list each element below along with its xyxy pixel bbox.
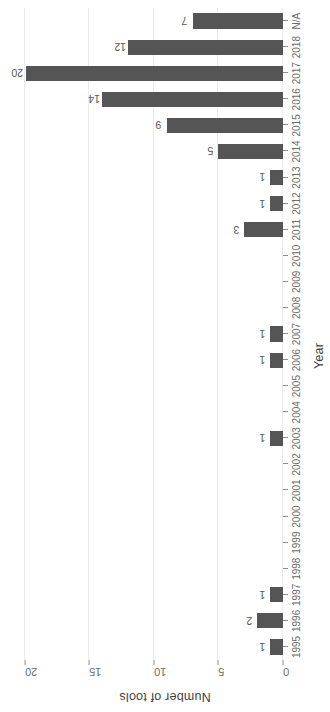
bar-slot[interactable] [12,556,283,582]
bar[interactable] [270,639,283,654]
bar[interactable] [270,587,283,602]
bar[interactable] [270,326,283,341]
x-tick-mark [283,516,288,517]
y-tick-label: 10 [154,666,166,678]
bar-value-label: 14 [88,94,100,105]
x-tick-mark [283,46,288,47]
figure-rotation-wrapper: Number of tools 05101520 121111311591420… [0,0,330,712]
bar-slot[interactable]: 1 [12,321,283,347]
x-tick-mark [283,72,288,73]
bar[interactable] [218,144,283,159]
bar[interactable] [270,431,283,446]
bar[interactable] [193,14,283,29]
bar-value-label: 1 [259,355,265,366]
bar-value-label: 1 [259,590,265,601]
bar[interactable] [270,353,283,368]
bar-slot[interactable] [12,451,283,477]
plot-inner: 121111311591420127 [12,8,283,660]
x-tick-label: 2004 [291,401,302,423]
x-tick-label: 2005 [291,375,302,397]
x-tick-mark [283,98,288,99]
x-tick-mark [283,489,288,490]
bar[interactable] [26,66,284,81]
bar-slot[interactable]: 5 [12,138,283,164]
bar[interactable] [270,196,283,211]
bar-value-label: 9 [156,120,162,131]
x-tick-label: 1995 [291,636,302,658]
bar-slot[interactable]: 1 [12,164,283,190]
x-tick-mark [283,124,288,125]
x-tick-mark [283,385,288,386]
bar-slot[interactable]: 1 [12,582,283,608]
x-tick-label: 2010 [291,245,302,267]
x-tick-label: 2014 [291,140,302,162]
y-tick-label: 15 [89,666,101,678]
bar-slot[interactable]: 14 [12,86,283,112]
bar-slot[interactable]: 20 [12,60,283,86]
y-tick-mark [153,660,154,665]
bar-slot[interactable] [12,399,283,425]
bar[interactable] [257,613,283,628]
bar-slot[interactable]: 2 [12,608,283,634]
bar-slot[interactable] [12,373,283,399]
bar-value-label: 7 [182,16,188,27]
bar-chart-figure: Number of tools 05101520 121111311591420… [0,0,330,712]
bar-slot[interactable]: 1 [12,191,283,217]
y-tick-mark [24,660,25,665]
x-tick-mark [283,463,288,464]
x-tick-mark [283,359,288,360]
bar[interactable] [270,170,283,185]
bar[interactable] [128,40,283,55]
x-tick-mark [283,229,288,230]
x-tick-label: 1999 [291,532,302,554]
bar-value-label: 20 [11,68,23,79]
bar[interactable] [167,118,283,133]
bar-slot[interactable]: 1 [12,634,283,660]
bar[interactable] [244,222,283,237]
x-tick-label: 2016 [291,88,302,110]
bar-slot[interactable]: 12 [12,34,283,60]
x-tick-label: 1996 [291,610,302,632]
bar-value-label: 12 [114,42,126,53]
x-axis-title: Year [312,0,326,712]
y-tick-label: 0 [283,666,289,678]
bar-slot[interactable] [12,295,283,321]
bar-value-label: 1 [259,172,265,183]
x-tick-mark [283,437,288,438]
x-tick-label: 1997 [291,584,302,606]
bar-slot[interactable] [12,530,283,556]
bar-slot[interactable]: 1 [12,425,283,451]
x-tick-label: 2008 [291,297,302,319]
bar-slot[interactable] [12,477,283,503]
y-tick-label: 5 [218,666,224,678]
bar-slot[interactable] [12,243,283,269]
y-axis: 05101520 [0,660,330,712]
x-tick-label: 2011 [291,219,302,241]
bar-value-label: 2 [246,616,252,627]
x-tick-label: 2006 [291,349,302,371]
x-tick-mark [283,307,288,308]
x-tick-label: 2002 [291,453,302,475]
bar-value-label: 1 [259,642,265,653]
x-tick-mark [283,150,288,151]
y-tick-mark [89,660,90,665]
x-tick-label: 2003 [291,427,302,449]
bar-slot[interactable] [12,504,283,530]
bar[interactable] [102,92,283,107]
bar-value-label: 1 [259,329,265,340]
bar-slot[interactable]: 9 [12,112,283,138]
x-tick-label: 2015 [291,114,302,136]
x-tick-label: 2018 [291,36,302,58]
bar-value-label: 3 [233,224,239,235]
y-tick-mark [283,660,284,665]
x-tick-mark [283,177,288,178]
x-tick-mark [283,620,288,621]
bar-slot[interactable] [12,269,283,295]
bar-slot[interactable]: 3 [12,217,283,243]
x-tick-mark [283,542,288,543]
x-tick-mark [283,255,288,256]
bar-slot[interactable]: 7 [12,8,283,34]
bar-slot[interactable]: 1 [12,347,283,373]
x-tick-mark [283,568,288,569]
x-tick-label: 2009 [291,271,302,293]
